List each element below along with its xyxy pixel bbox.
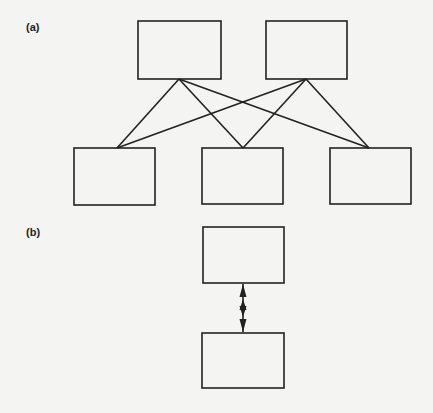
diagram-canvas — [0, 0, 433, 413]
double-arrow-heads — [240, 284, 247, 332]
arrow-down-icon — [240, 319, 247, 332]
box-b-top — [203, 227, 284, 283]
connector-line — [117, 79, 179, 148]
connector-line — [243, 79, 306, 148]
arrow-up-icon — [240, 284, 247, 297]
connector-line — [117, 79, 306, 148]
connector-line — [306, 79, 369, 148]
box-a-top-2 — [266, 21, 347, 79]
arrow-down-icon — [240, 306, 247, 317]
box-a-bottom-2 — [202, 148, 283, 204]
box-a-bottom-1 — [74, 148, 155, 205]
box-b-bottom — [202, 333, 284, 388]
panel-a — [74, 21, 411, 205]
box-a-bottom-3 — [330, 148, 411, 204]
box-a-top-1 — [138, 21, 221, 79]
